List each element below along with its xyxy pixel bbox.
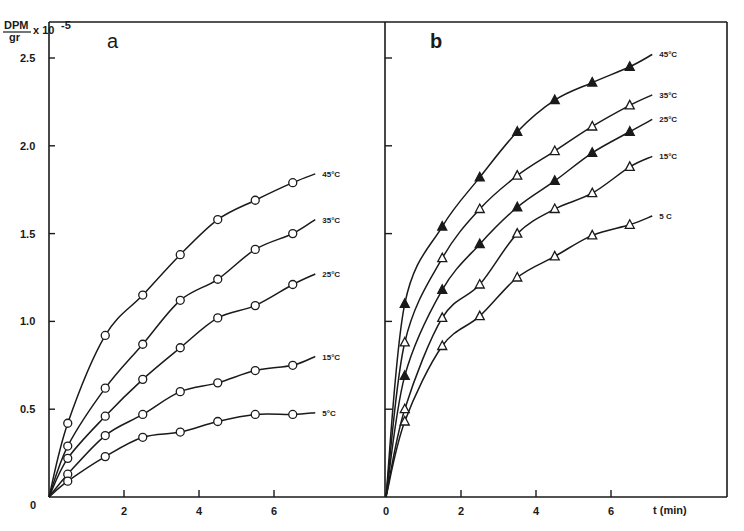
data-point-circle bbox=[64, 442, 72, 450]
fit-curve bbox=[49, 174, 315, 497]
data-point-triangle bbox=[625, 127, 634, 136]
series-label: 25°C bbox=[322, 270, 340, 279]
data-point-circle bbox=[251, 410, 259, 418]
data-point-triangle bbox=[588, 188, 597, 197]
fit-curve bbox=[49, 357, 315, 497]
panel-b-title: b bbox=[430, 30, 442, 52]
data-point-triangle bbox=[550, 251, 559, 260]
fit-curve bbox=[49, 220, 315, 497]
data-point-triangle bbox=[550, 95, 559, 104]
data-point-circle bbox=[139, 340, 147, 348]
x-tick-label: 6 bbox=[271, 505, 277, 517]
series-label: 5°C bbox=[322, 409, 336, 418]
x-tick-label: 2 bbox=[121, 505, 127, 517]
y-tick-label: 1.5 bbox=[20, 228, 35, 240]
data-point-circle bbox=[176, 344, 184, 352]
data-point-circle bbox=[251, 367, 259, 375]
frame bbox=[49, 22, 727, 497]
series-label: 35°C bbox=[659, 91, 677, 100]
series-label: 15°C bbox=[659, 152, 677, 161]
x-axis-title: t (min) bbox=[653, 504, 687, 516]
data-point-triangle bbox=[400, 371, 409, 380]
data-point-circle bbox=[214, 275, 222, 283]
data-point-circle bbox=[289, 410, 297, 418]
data-point-circle bbox=[64, 477, 72, 485]
data-point-circle bbox=[139, 433, 147, 441]
data-point-circle bbox=[214, 314, 222, 322]
data-point-triangle bbox=[438, 285, 447, 294]
data-point-circle bbox=[251, 196, 259, 204]
data-point-circle bbox=[139, 375, 147, 383]
y-tick-label: 2.0 bbox=[20, 140, 35, 152]
fit-curves bbox=[49, 54, 652, 497]
y-tick-label: 0.5 bbox=[20, 403, 35, 415]
data-point-circle bbox=[214, 417, 222, 425]
data-point-circle bbox=[64, 454, 72, 462]
y-tick-label: 1.0 bbox=[20, 315, 35, 327]
data-point-triangle bbox=[400, 404, 409, 413]
data-point-triangle bbox=[588, 121, 597, 129]
y-tick-label: 2.5 bbox=[20, 52, 35, 64]
data-point-circle bbox=[214, 216, 222, 224]
data-point-circle bbox=[101, 331, 109, 339]
data-point-triangle bbox=[400, 337, 409, 346]
x-tick-label: 6 bbox=[608, 505, 614, 517]
y-axis-multiplier: x 10 bbox=[33, 24, 54, 36]
axis-ticks: 00.51.01.52.02.52460246 bbox=[20, 52, 614, 517]
data-point-triangle bbox=[513, 273, 522, 282]
data-point-triangle bbox=[438, 253, 447, 261]
series-labels: 45°C35°C25°C15°C5°C45°C35°C25°C15°C5 C bbox=[322, 50, 677, 417]
fit-curve bbox=[49, 274, 315, 497]
series-label: 25°C bbox=[659, 115, 677, 124]
series-label: 45°C bbox=[322, 170, 340, 179]
y-axis-label-denominator: gr bbox=[9, 31, 21, 43]
series-label: 15°C bbox=[322, 353, 340, 362]
data-point-triangle bbox=[550, 176, 559, 185]
data-point-circle bbox=[176, 388, 184, 396]
data-point-triangle bbox=[513, 202, 522, 211]
data-point-circle bbox=[64, 419, 72, 427]
data-point-circle bbox=[176, 251, 184, 259]
data-point-circle bbox=[176, 296, 184, 304]
series-label: 5 C bbox=[659, 212, 672, 221]
data-point-circle bbox=[214, 379, 222, 387]
data-point-circle bbox=[176, 428, 184, 436]
data-point-triangle bbox=[513, 171, 522, 180]
data-point-triangle bbox=[625, 162, 634, 171]
fit-curve bbox=[386, 216, 652, 497]
x-tick-label: 0 bbox=[383, 505, 389, 517]
series-label: 35°C bbox=[322, 216, 340, 225]
x-tick-label: 4 bbox=[533, 505, 540, 517]
series-label: 45°C bbox=[659, 50, 677, 59]
data-point-circle bbox=[101, 412, 109, 420]
data-point-circle bbox=[251, 302, 259, 310]
y-axis-label-numerator: DPM bbox=[4, 19, 28, 31]
fit-curve bbox=[386, 95, 652, 497]
data-point-circle bbox=[289, 281, 297, 289]
data-point-circle bbox=[101, 432, 109, 440]
y-axis-exponent: -5 bbox=[61, 19, 71, 31]
x-tick-label: 2 bbox=[458, 505, 464, 517]
data-markers bbox=[64, 62, 635, 485]
data-point-circle bbox=[289, 361, 297, 369]
fit-curve bbox=[49, 413, 315, 497]
data-point-circle bbox=[139, 410, 147, 418]
figure: 00.51.01.52.02.52460246 45°C35°C25°C15°C… bbox=[0, 0, 744, 531]
panel-a-title: a bbox=[107, 30, 119, 52]
data-point-triangle bbox=[550, 146, 559, 155]
y-tick-label: 0 bbox=[30, 499, 36, 511]
data-point-triangle bbox=[400, 299, 409, 308]
data-point-circle bbox=[139, 291, 147, 299]
data-point-triangle bbox=[625, 100, 634, 109]
data-point-triangle bbox=[588, 148, 597, 157]
data-point-circle bbox=[101, 384, 109, 392]
data-point-circle bbox=[289, 230, 297, 238]
data-point-circle bbox=[251, 245, 259, 253]
x-tick-label: 4 bbox=[196, 505, 203, 517]
data-point-circle bbox=[289, 179, 297, 187]
data-point-circle bbox=[101, 453, 109, 461]
